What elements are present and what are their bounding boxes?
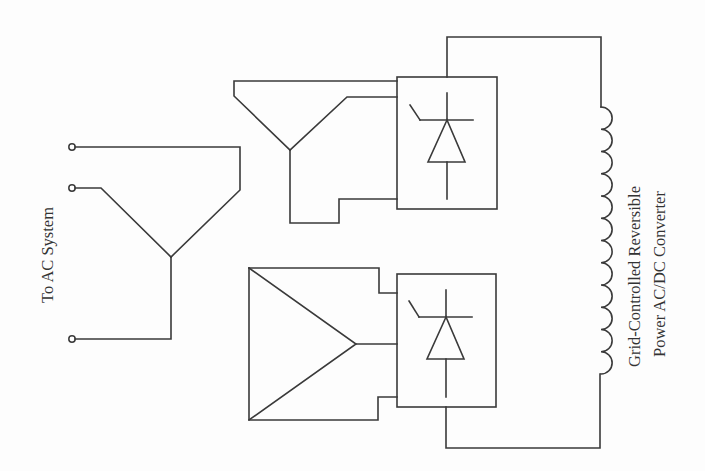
- converter-label-line2: Power AC/DC Converter: [650, 191, 669, 357]
- transformer-primary-wye: [75, 147, 240, 339]
- transformer-secondary-wye: [234, 81, 397, 223]
- converter-label-line1: Grid-Controlled Reversible: [625, 186, 644, 367]
- thyristor-icon: [410, 93, 473, 199]
- ac-terminals: [69, 144, 75, 342]
- inductor-coil-icon: [601, 107, 612, 374]
- transformer-secondary-delta: [249, 268, 397, 420]
- thyristor-bridge-upper: [397, 77, 497, 209]
- dc-link: [446, 37, 612, 448]
- thyristor-bridge-lower: [397, 274, 496, 407]
- ac-system-label: To AC System: [38, 207, 57, 303]
- converter-schematic: To AC System: [0, 0, 705, 471]
- thyristor-icon: [409, 290, 472, 397]
